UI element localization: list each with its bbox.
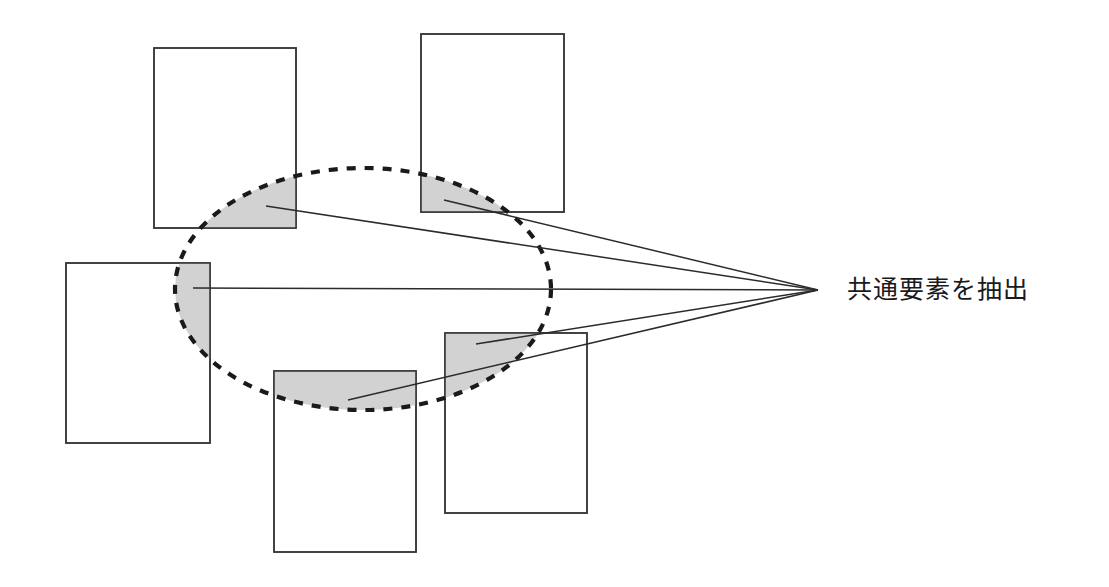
- extract-common-elements-label: 共通要素を抽出: [847, 277, 1029, 302]
- pointer-line-top-right: [444, 200, 818, 290]
- diagram-canvas: 共通要素を抽出: [0, 0, 1109, 587]
- document-rectangles-group: [66, 34, 587, 552]
- pointer-line-bottom-right: [476, 290, 818, 344]
- pointer-line-top-left: [266, 206, 818, 290]
- pointer-line-middle-left: [193, 288, 818, 290]
